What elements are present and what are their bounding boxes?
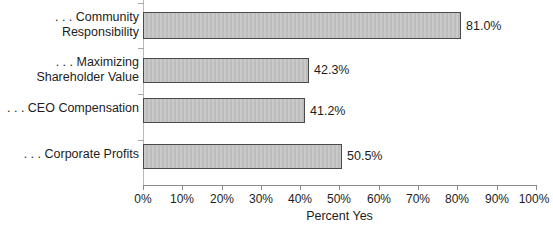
x-axis-tick — [143, 185, 144, 190]
y-axis-tick — [138, 3, 144, 4]
bar-value-corporate-profits: 50.5% — [347, 149, 382, 163]
x-axis-tick — [379, 185, 380, 190]
x-tick-label-30: 30% — [249, 192, 273, 206]
x-tick-label-100: 100% — [519, 192, 550, 206]
x-axis-tick — [261, 185, 262, 190]
x-axis-title: Percent Yes — [143, 209, 536, 223]
x-tick-label-10: 10% — [170, 192, 194, 206]
x-axis-line — [143, 185, 537, 186]
x-axis-tick — [339, 185, 340, 190]
x-tick-label-0: 0% — [134, 192, 151, 206]
x-tick-label-20: 20% — [210, 192, 234, 206]
x-axis-tick — [457, 185, 458, 190]
y-axis-tick — [138, 94, 144, 95]
y-axis-tick — [138, 48, 144, 49]
x-tick-label-90: 90% — [485, 192, 509, 206]
x-axis-tick — [222, 185, 223, 190]
bar-ceo-compensation — [143, 98, 305, 123]
bar-maximizing-shareholder-value — [143, 58, 309, 83]
category-label-ceo-compensation: . . . CEO Compensation — [0, 101, 139, 116]
x-axis-tick — [182, 185, 183, 190]
x-tick-label-60: 60% — [367, 192, 391, 206]
y-axis-tick — [138, 140, 144, 141]
x-axis-tick — [536, 185, 537, 190]
bar-value-ceo-compensation: 41.2% — [310, 104, 345, 118]
bar-chart: . . . Community Responsibility . . . Max… — [0, 0, 553, 228]
bar-corporate-profits — [143, 144, 342, 169]
x-tick-label-80: 80% — [445, 192, 469, 206]
x-tick-label-70: 70% — [406, 192, 430, 206]
category-label-corporate-profits: . . . Corporate Profits — [0, 147, 139, 162]
x-axis-tick — [418, 185, 419, 190]
bar-value-community-responsibility: 81.0% — [466, 19, 501, 33]
bar-value-maximizing-shareholder-value: 42.3% — [314, 63, 349, 77]
category-label-community-responsibility: . . . Community Responsibility — [0, 10, 139, 40]
bar-community-responsibility — [143, 12, 461, 39]
x-tick-label-40: 40% — [288, 192, 312, 206]
x-tick-label-50: 50% — [327, 192, 351, 206]
category-label-maximizing-shareholder-value: . . . Maximizing Shareholder Value — [0, 55, 139, 85]
x-axis-tick — [497, 185, 498, 190]
x-axis-tick — [300, 185, 301, 190]
category-axis-labels: . . . Community Responsibility . . . Max… — [0, 0, 139, 185]
